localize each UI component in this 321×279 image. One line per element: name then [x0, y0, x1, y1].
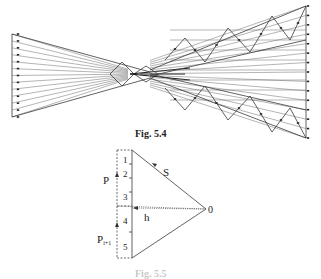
right-load-mark — [307, 15, 309, 17]
right-load-mark — [307, 137, 309, 139]
label-s: S — [163, 166, 169, 178]
label-h: h — [144, 211, 150, 223]
lower-zigzag-mark — [238, 107, 240, 109]
left-outer-ray-bottom — [12, 78, 150, 117]
lower-zigzag-mark — [297, 122, 299, 124]
left-ray — [12, 77, 128, 97]
label-pi1-sub: i+1 — [103, 240, 111, 246]
left-ray — [12, 34, 128, 69]
right-ray — [150, 72, 306, 74]
right-load-mark — [307, 52, 309, 54]
left-load-mark — [17, 75, 19, 77]
left-ray — [12, 78, 128, 110]
diagram-canvas: Fig. 5.4 1 2 3 4 5 P — [0, 0, 321, 279]
left-ray — [12, 79, 128, 117]
lower-zigzag-mark — [280, 119, 282, 121]
arrow-pi1-icon — [115, 222, 119, 227]
right-ray — [150, 6, 306, 60]
arrow-p-icon — [115, 172, 119, 177]
right-ray — [150, 87, 306, 138]
left-load-mark — [17, 109, 19, 111]
left-load-mark — [17, 61, 19, 63]
label-segment-3: 3 — [123, 192, 128, 202]
upper-zigzag-mark — [280, 27, 282, 29]
label-segment-4: 4 — [123, 216, 128, 226]
left-load-mark — [17, 102, 19, 104]
lower-zigzag-mark — [174, 98, 176, 100]
right-load-mark — [307, 5, 309, 7]
left-load-mark — [17, 116, 19, 118]
upper-zigzag-mark — [260, 33, 262, 35]
right-ray — [150, 81, 306, 110]
left-ray — [12, 41, 128, 70]
left-ray — [12, 48, 128, 71]
label-p: P — [103, 174, 109, 186]
left-load-mark — [17, 89, 19, 91]
right-load-mark — [307, 62, 309, 64]
upper-envelope-outer — [150, 6, 306, 70]
left-load-mark — [17, 47, 19, 49]
right-load-mark — [307, 33, 309, 35]
left-load-mark — [17, 95, 19, 97]
caption-fig-5-5: Fig. 5.5 — [135, 268, 166, 279]
label-segment-5: 5 — [123, 242, 128, 252]
right-load-mark — [307, 43, 309, 45]
upper-envelope-inner — [150, 40, 306, 76]
upper-zigzag-mark — [238, 39, 240, 41]
label-pi1: Pi+1 — [97, 233, 111, 246]
right-load-mark — [307, 71, 309, 73]
force-polygon-bottom: 1 2 3 4 5 P Pi+1 S h 0 — [97, 150, 213, 258]
right-load-mark — [307, 90, 309, 92]
lower-zigzag-mark — [260, 113, 262, 115]
label-pole: 0 — [208, 204, 213, 215]
lower-envelope-inner — [150, 74, 306, 110]
right-load-mark — [307, 24, 309, 26]
left-load-mark — [17, 68, 19, 70]
right-load-mark — [307, 128, 309, 130]
upper-zigzag-mark — [194, 49, 196, 51]
upper-zigzag-mark — [297, 22, 299, 24]
caption-fig-5-4: Fig. 5.4 — [135, 128, 166, 139]
left-load-mark — [17, 33, 19, 35]
right-load-mark — [307, 109, 309, 111]
right-load-mark — [307, 118, 309, 120]
label-segment-1: 1 — [123, 155, 128, 165]
lower-zigzag-mark — [194, 97, 196, 99]
upper-zigzag-mark — [174, 48, 176, 50]
right-ray — [150, 85, 306, 129]
right-load-mark — [307, 81, 309, 83]
left-ray — [12, 76, 128, 89]
lower-envelope-outer — [150, 78, 306, 138]
left-load-mark — [17, 82, 19, 84]
force-diagram-top — [12, 5, 309, 139]
right-load-mark — [307, 99, 309, 101]
left-load-mark — [17, 40, 19, 42]
member-s-line — [132, 150, 206, 209]
upper-zigzag-mark — [215, 44, 217, 46]
lower-zigzag-mark — [215, 102, 217, 104]
left-load-mark — [17, 54, 19, 56]
right-ray — [150, 83, 306, 119]
left-outer-ray-top — [12, 34, 150, 72]
label-segment-2: 2 — [123, 169, 128, 179]
